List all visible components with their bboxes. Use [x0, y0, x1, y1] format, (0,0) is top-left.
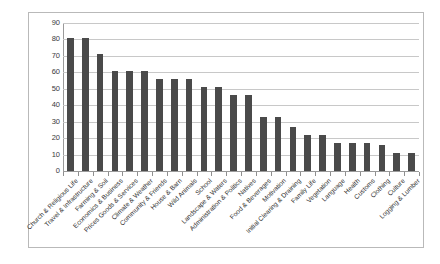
bar-series: [63, 23, 419, 171]
x-tick: [286, 172, 287, 176]
x-axis-ticks: [63, 172, 419, 176]
y-tick-label-40: 40: [34, 101, 60, 109]
bar: [408, 153, 415, 171]
x-tick: [389, 172, 390, 176]
x-tick: [137, 172, 138, 176]
bar: [112, 71, 119, 171]
chart-frame: 0102030405060708090 Church & Religious L…: [28, 12, 424, 248]
bar: [304, 135, 311, 171]
y-tick-label-0: 0: [34, 167, 60, 175]
x-tick: [211, 172, 212, 176]
bar: [82, 38, 89, 171]
x-tick: [241, 172, 242, 176]
y-tick-label-30: 30: [34, 118, 60, 126]
x-tick: [122, 172, 123, 176]
bar: [171, 79, 178, 171]
x-tick: [300, 172, 301, 176]
plot-area: [63, 23, 419, 171]
bar: [334, 143, 341, 171]
x-tick: [404, 172, 405, 176]
bar: [364, 143, 371, 171]
x-tick: [360, 172, 361, 176]
y-tick-label-10: 10: [34, 151, 60, 159]
x-tick: [330, 172, 331, 176]
bar: [156, 79, 163, 171]
x-tick: [108, 172, 109, 176]
x-tick: [93, 172, 94, 176]
bar: [379, 145, 386, 171]
bar: [126, 71, 133, 171]
y-tick-label-80: 80: [34, 36, 60, 44]
bar: [141, 71, 148, 171]
x-tick: [152, 172, 153, 176]
x-tick: [271, 172, 272, 176]
y-tick-label-70: 70: [34, 52, 60, 60]
x-tick: [167, 172, 168, 176]
bar: [201, 87, 208, 171]
x-axis-tick-labels: Church & Religious LifeTravel & Infrastr…: [63, 177, 419, 247]
bar: [245, 95, 252, 171]
y-tick-label-60: 60: [34, 69, 60, 77]
x-tick: [63, 172, 64, 176]
bar: [349, 143, 356, 171]
bar: [275, 117, 282, 171]
bar: [186, 79, 193, 171]
bar: [393, 153, 400, 171]
y-tick-label-50: 50: [34, 85, 60, 93]
bar: [215, 87, 222, 171]
bar: [319, 135, 326, 171]
x-tick: [315, 172, 316, 176]
bar: [260, 117, 267, 171]
y-tick-label-20: 20: [34, 134, 60, 142]
x-tick: [419, 172, 420, 176]
bar: [67, 38, 74, 171]
x-tick: [345, 172, 346, 176]
x-tick: [256, 172, 257, 176]
y-tick-label-90: 90: [34, 19, 60, 27]
bar: [97, 54, 104, 171]
x-tick: [375, 172, 376, 176]
bar: [230, 95, 237, 171]
x-tick: [197, 172, 198, 176]
x-tick: [182, 172, 183, 176]
y-axis-tick-labels: 0102030405060708090: [29, 23, 60, 171]
x-tick: [78, 172, 79, 176]
bar: [290, 127, 297, 171]
x-tick: [226, 172, 227, 176]
